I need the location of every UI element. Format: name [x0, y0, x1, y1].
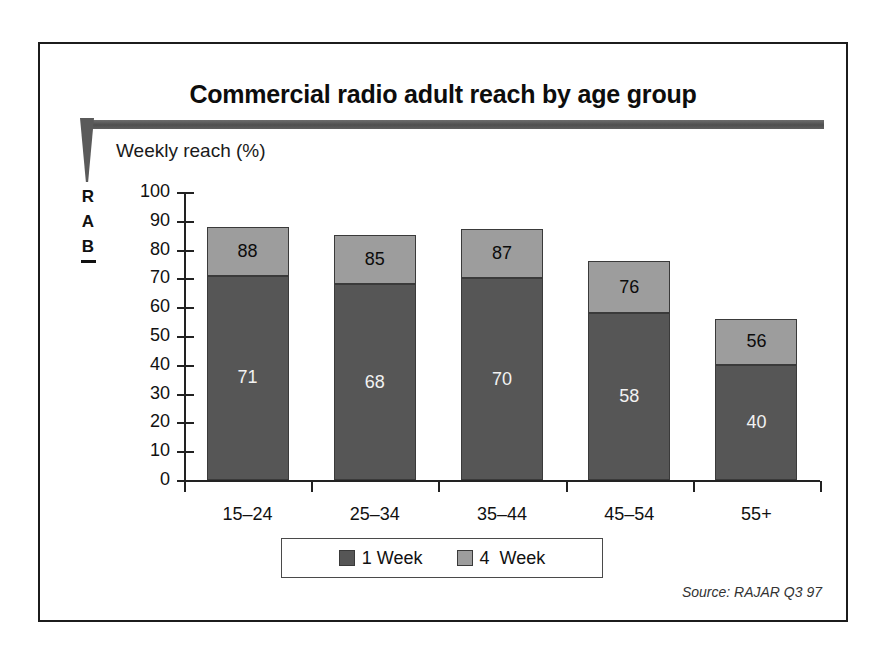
- slide-frame: Commercial radio adult reach by age grou…: [38, 42, 848, 622]
- legend-swatch: [457, 550, 473, 566]
- y-axis-tick-label: 20: [126, 411, 170, 432]
- y-axis-tick: [177, 365, 194, 367]
- bar-value-label: 71: [238, 367, 258, 388]
- x-axis-tick: [311, 481, 313, 492]
- y-axis-tick-label: 80: [126, 239, 170, 260]
- legend-swatch: [339, 550, 355, 566]
- bar-segment-1-week[interactable]: 58: [588, 313, 670, 480]
- rab-logo-letters: R A B: [72, 184, 104, 259]
- y-axis-tick-label: 50: [126, 325, 170, 346]
- source-note: Source: RAJAR Q3 97: [682, 584, 822, 600]
- x-axis-line: [184, 480, 820, 482]
- bar-segment-1-week[interactable]: 71: [207, 276, 289, 480]
- bar-segment-4-week[interactable]: 85: [334, 235, 416, 284]
- bar-group[interactable]: 5876: [588, 261, 670, 480]
- y-axis-tick: [177, 221, 194, 223]
- bar-value-label: 40: [746, 412, 766, 433]
- rab-letter-b: B: [72, 234, 104, 259]
- bar-group[interactable]: 4056: [715, 319, 797, 480]
- y-axis-tick-label: 90: [126, 210, 170, 231]
- x-axis-tick: [566, 481, 568, 492]
- bar-value-label: 56: [746, 331, 766, 352]
- bar-group[interactable]: 7087: [461, 229, 543, 480]
- bar-segment-1-week[interactable]: 70: [461, 278, 543, 480]
- y-axis-tick: [177, 451, 194, 453]
- y-axis-tick-label: 60: [126, 296, 170, 317]
- rab-logo: R A B: [72, 118, 118, 278]
- y-axis-tick-label: 100: [126, 181, 170, 202]
- bar-value-label: 70: [492, 369, 512, 390]
- y-axis-tick: [177, 422, 194, 424]
- legend-label: 4 Week: [480, 548, 546, 569]
- header-divider: [87, 120, 824, 129]
- x-axis-tick: [184, 481, 186, 492]
- bar-segment-4-week[interactable]: 88: [207, 227, 289, 276]
- bar-segment-4-week[interactable]: 87: [461, 229, 543, 278]
- y-axis-tick-label: 70: [126, 267, 170, 288]
- chart-plot-area: 1009080706050403020100 71886885708758764…: [184, 192, 820, 480]
- bar-segment-1-week[interactable]: 40: [715, 365, 797, 480]
- rab-letter-a: A: [72, 209, 104, 234]
- x-axis-tick-label: 25–34: [315, 504, 435, 525]
- y-axis-tick-label: 40: [126, 354, 170, 375]
- x-axis-tick: [820, 481, 822, 492]
- bar-value-label: 87: [492, 243, 512, 264]
- bar-group[interactable]: 7188: [207, 227, 289, 480]
- y-axis-tick-label: 0: [126, 469, 170, 490]
- legend-item[interactable]: 4 Week: [457, 548, 546, 569]
- x-axis-tick: [693, 481, 695, 492]
- y-axis-tick: [177, 336, 194, 338]
- bar-value-label: 88: [238, 241, 258, 262]
- y-axis-tick: [177, 250, 194, 252]
- bar-group[interactable]: 6885: [334, 235, 416, 480]
- x-axis-tick-label: 55+: [696, 504, 816, 525]
- bar-value-label: 58: [619, 386, 639, 407]
- y-axis-tick-label: 10: [126, 440, 170, 461]
- bar-value-label: 76: [619, 277, 639, 298]
- chart-legend: 1 Week4 Week: [281, 538, 603, 578]
- legend-item[interactable]: 1 Week: [339, 548, 423, 569]
- bar-segment-4-week[interactable]: 56: [715, 319, 797, 365]
- y-axis-tick: [177, 394, 194, 396]
- rab-letter-r: R: [72, 184, 104, 209]
- y-axis-tick: [177, 278, 194, 280]
- y-axis-tick: [177, 307, 194, 309]
- x-axis-tick-label: 15–24: [188, 504, 308, 525]
- legend-label: 1 Week: [362, 548, 423, 569]
- y-axis-title: Weekly reach (%): [116, 140, 266, 162]
- x-axis-tick-label: 35–44: [442, 504, 562, 525]
- x-axis-tick: [438, 481, 440, 492]
- y-axis-tick: [177, 192, 194, 194]
- page-title: Commercial radio adult reach by age grou…: [40, 80, 846, 109]
- rab-wedge-icon: [80, 118, 94, 182]
- y-axis-tick-label: 30: [126, 383, 170, 404]
- bar-segment-4-week[interactable]: 76: [588, 261, 670, 313]
- x-axis-tick-label: 45–54: [569, 504, 689, 525]
- bar-value-label: 85: [365, 249, 385, 270]
- rab-underline: [81, 260, 96, 263]
- bar-segment-1-week[interactable]: 68: [334, 284, 416, 480]
- bar-value-label: 68: [365, 372, 385, 393]
